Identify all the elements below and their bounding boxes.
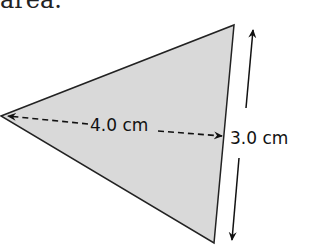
base-arrow-up — [246, 30, 253, 108]
base-arrow-down — [232, 158, 239, 240]
triangle-diagram: 4.0 cm 3.0 cm — [0, 0, 310, 252]
height-label: 4.0 cm — [90, 115, 148, 135]
base-label: 3.0 cm — [230, 128, 288, 148]
